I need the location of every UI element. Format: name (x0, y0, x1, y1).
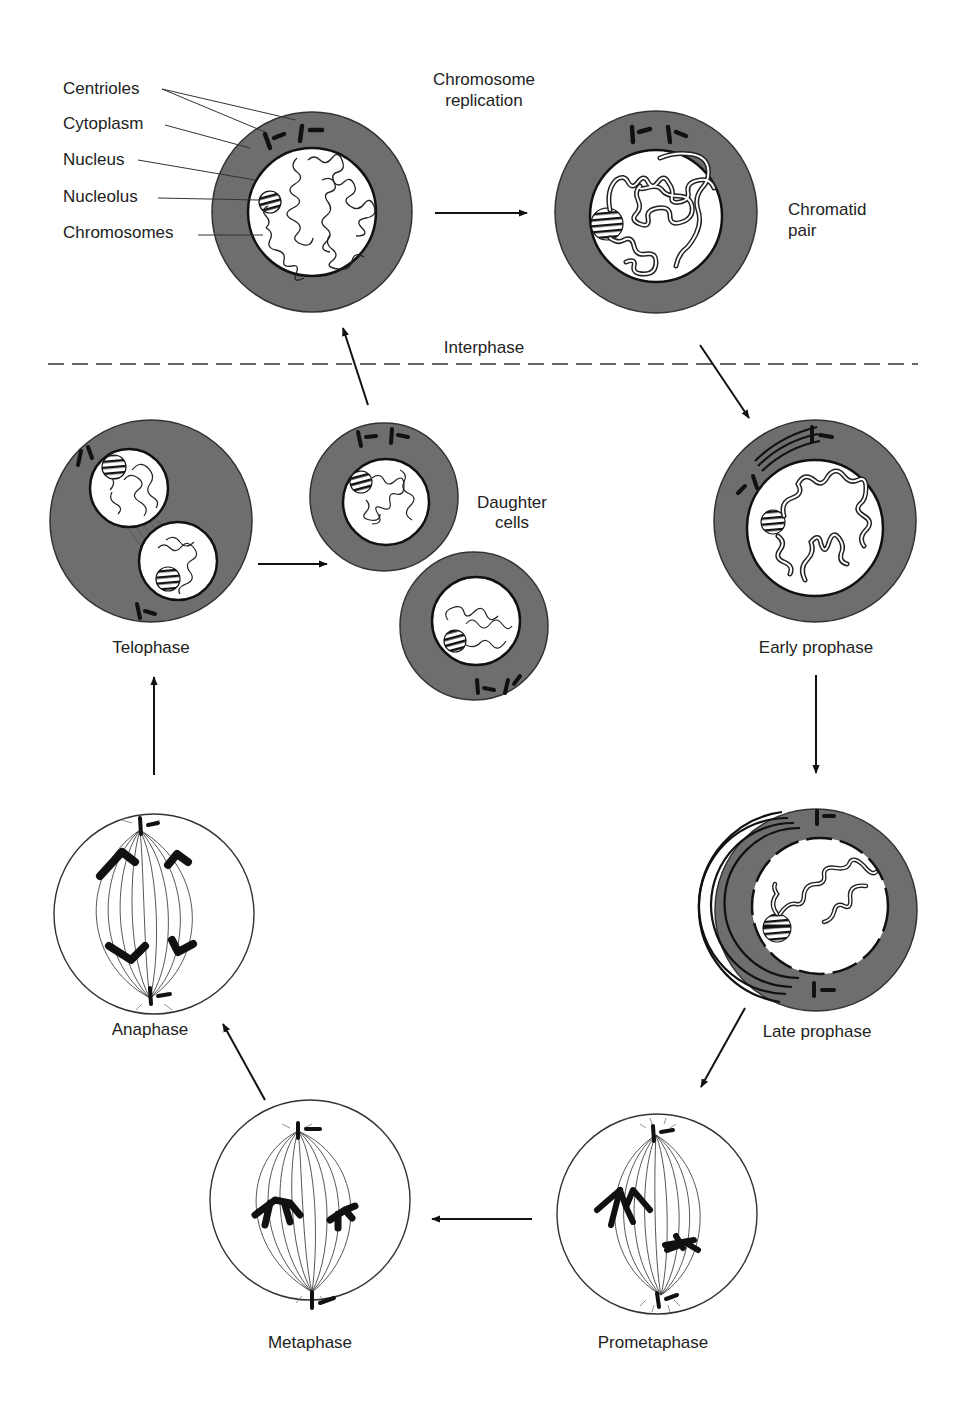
stage-label-metaphase: Metaphase (268, 1333, 352, 1353)
nucleolus (259, 191, 281, 213)
nucleolus (591, 208, 623, 240)
arrow-to-anaphase (223, 1024, 265, 1100)
annotation-interphase: Interphase (444, 338, 524, 358)
stage-label-telophase: Telophase (112, 638, 190, 658)
daughter-cell-2 (400, 552, 548, 700)
nucleolus (102, 455, 126, 479)
annotation-daughter-cells-line2: cells (495, 513, 529, 533)
stage-label-anaphase: Anaphase (112, 1020, 189, 1040)
cell-anaphase (54, 814, 254, 1014)
legend-label-nucleus: Nucleus (63, 150, 124, 170)
cell-cycle-diagram: Centrioles Cytoplasm Nucleus Nucleolus C… (0, 0, 962, 1420)
cell-metaphase (210, 1100, 410, 1308)
stage-label-late-prophase: Late prophase (763, 1022, 872, 1042)
annotation-chromatid-line1: Chromatid (788, 200, 866, 220)
cell-interphase-g1 (212, 112, 412, 312)
stage-label-prometaphase: Prometaphase (598, 1333, 709, 1353)
legend-label-centrioles: Centrioles (63, 79, 140, 99)
arrow-to-early-prophase (700, 345, 749, 418)
nucleolus (156, 567, 180, 591)
cell-membrane (557, 1114, 757, 1314)
nucleolus (444, 630, 466, 652)
annotation-chromosome-replication-line1: Chromosome (433, 70, 535, 90)
nucleus-top (90, 449, 168, 527)
cell-telophase (50, 420, 252, 622)
legend-label-chromosomes: Chromosomes (63, 223, 174, 243)
arrow-to-interphase (343, 328, 368, 405)
daughter-cell-1 (310, 423, 458, 571)
cell-early-prophase (714, 420, 916, 622)
cell-prometaphase (557, 1114, 757, 1314)
arrow-to-prometaphase (701, 1008, 745, 1087)
annotation-chromosome-replication-line2: replication (445, 91, 523, 111)
legend-label-nucleolus: Nucleolus (63, 187, 138, 207)
legend-label-cytoplasm: Cytoplasm (63, 114, 143, 134)
annotation-chromatid-line2: pair (788, 221, 816, 241)
cell-late-prophase (699, 809, 917, 1011)
nucleolus (763, 914, 791, 942)
nucleolus (350, 471, 372, 493)
cell-membrane (54, 814, 254, 1014)
cell-interphase-replicated (555, 111, 757, 313)
stage-label-early-prophase: Early prophase (759, 638, 873, 658)
annotation-daughter-cells-line1: Daughter (477, 493, 547, 513)
nucleus-bottom (139, 522, 217, 600)
